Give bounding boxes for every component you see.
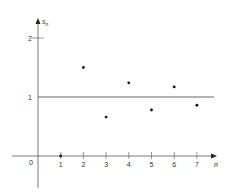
x-tick-label: 6 (172, 161, 176, 168)
y-tick-label: 1 (28, 94, 32, 101)
y-tick-label: 2 (28, 35, 32, 42)
y-axis-label: sn (42, 18, 49, 27)
x-tick-label: 3 (104, 161, 108, 168)
data-points (59, 66, 198, 157)
x-tick-label: 5 (150, 161, 154, 168)
x-axis-arrow-icon (211, 154, 217, 159)
data-point (82, 66, 85, 69)
data-point (173, 86, 176, 89)
data-point (196, 104, 199, 107)
y-axis-label-subscript: n (46, 21, 49, 27)
x-axis-label: n (214, 161, 218, 168)
data-point (127, 81, 130, 84)
scatter-plot: 123456712 n sn 0 (0, 0, 233, 196)
axes (12, 18, 217, 188)
x-tick-label: 2 (81, 161, 85, 168)
origin-label: 0 (29, 159, 33, 166)
y-axis-arrow-icon (36, 18, 41, 24)
x-tick-label: 1 (59, 161, 63, 168)
tick-labels: 123456712 (28, 35, 199, 169)
data-point (105, 116, 108, 119)
x-tick-label: 7 (195, 161, 199, 168)
x-tick-label: 4 (127, 161, 131, 168)
data-point (150, 109, 153, 112)
